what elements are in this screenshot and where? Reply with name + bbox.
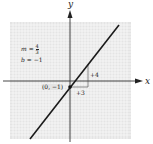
slope-denominator: 3 <box>36 50 39 55</box>
y-axis-label: y <box>68 0 73 9</box>
point-label: (0, −1) <box>42 84 63 90</box>
slope-symbol: m <box>21 45 27 52</box>
x-axis-arrow-icon <box>135 79 143 84</box>
intercept-value: = −1 <box>27 56 43 63</box>
coordinate-plane <box>0 0 153 144</box>
intercept-annotation: b = −1 <box>21 57 43 63</box>
rise-label: +4 <box>90 72 99 78</box>
slope-fraction: 4 3 <box>36 44 39 55</box>
run-label: +3 <box>76 90 85 96</box>
y-axis-arrow-icon <box>68 10 73 18</box>
intercept-symbol: b <box>21 56 25 63</box>
y-intercept-point <box>68 85 72 89</box>
x-axis-label: x <box>145 77 150 86</box>
slope-annotation: m = 4 3 <box>21 44 39 55</box>
slope-equals: = <box>29 45 34 52</box>
